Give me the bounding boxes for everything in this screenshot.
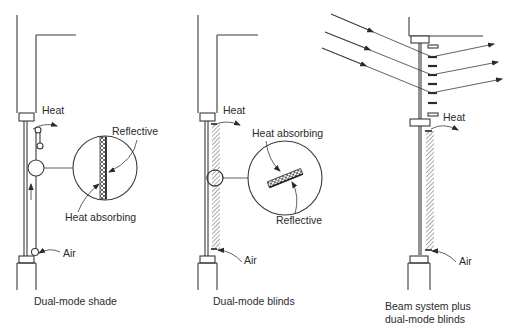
upper-wall bbox=[198, 15, 258, 113]
label-air: Air bbox=[63, 247, 76, 259]
heat-flow-arrow bbox=[431, 126, 458, 130]
label-heat-absorbing: Heat absorbing bbox=[252, 127, 323, 139]
upper-frame-block bbox=[19, 113, 34, 121]
label-reflective: Reflective bbox=[276, 214, 322, 226]
label-heat-absorbing: Heat absorbing bbox=[65, 211, 136, 223]
air-flow-arrow bbox=[218, 250, 242, 262]
detail-magnifier-shade bbox=[73, 136, 137, 200]
caption-beam-system-line1: Beam system plus bbox=[385, 300, 471, 312]
caption-dual-mode-blinds: Dual-mode blinds bbox=[213, 295, 295, 307]
beam-reflector-slats bbox=[428, 57, 437, 103]
lower-wall bbox=[198, 263, 217, 290]
detail-marker-circle bbox=[28, 160, 44, 176]
blinds-strip bbox=[426, 131, 434, 249]
incoming-sun-rays bbox=[322, 14, 432, 93]
upper-frame-block bbox=[411, 36, 429, 43]
caption-beam-system-line2: dual-mode blinds bbox=[385, 313, 465, 325]
lower-frame-block bbox=[410, 256, 428, 263]
label-reflective: Reflective bbox=[112, 125, 158, 137]
upper-frame-block bbox=[200, 113, 215, 121]
lower-wall bbox=[408, 263, 430, 290]
reflected-rays bbox=[436, 44, 502, 92]
label-air: Air bbox=[244, 254, 257, 266]
label-heat: Heat bbox=[223, 104, 245, 116]
caption-dual-mode-shade: Dual-mode shade bbox=[34, 295, 117, 307]
blinds-strip bbox=[212, 124, 220, 250]
lower-wall bbox=[17, 263, 36, 290]
label-heat: Heat bbox=[42, 104, 64, 116]
upper-wall bbox=[409, 17, 483, 36]
shade-roller bbox=[32, 127, 44, 256]
window-shading-diagram: Heat Air Reflective Heat absorbing Dual-… bbox=[0, 0, 513, 336]
panel-dual-mode-blinds: Heat Heat absorbing Reflective Air Dual-… bbox=[198, 15, 323, 307]
air-flow-arrow bbox=[39, 250, 60, 253]
upper-wall bbox=[17, 15, 76, 113]
middle-frame-block bbox=[410, 119, 430, 126]
detail-magnifier-blinds bbox=[248, 141, 322, 215]
label-heat: Heat bbox=[443, 111, 465, 123]
air-flow-arrow bbox=[432, 251, 456, 262]
lower-frame-block bbox=[200, 256, 215, 263]
label-air: Air bbox=[459, 255, 472, 267]
panel-dual-mode-shade: Heat Air Reflective Heat absorbing Dual-… bbox=[17, 15, 158, 307]
panel-beam-system: Heat Air Beam system plus dual-mode blin… bbox=[322, 14, 502, 325]
lower-frame-block bbox=[19, 256, 34, 263]
